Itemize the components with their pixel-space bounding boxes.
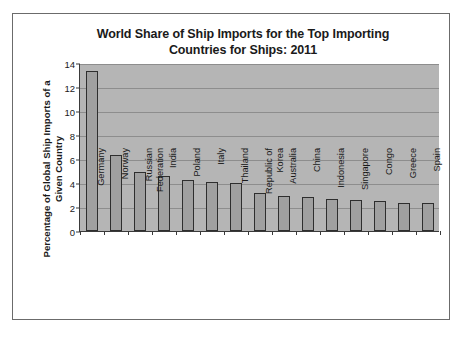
x-category-label-line: China (312, 148, 323, 238)
x-category-label-line: Russian (144, 148, 155, 238)
x-category-label-line: Italy (216, 148, 227, 238)
x-category-label-line: Republic of (264, 148, 275, 238)
x-category-label: Congo (384, 148, 395, 238)
y-axis-title: Percentage of Global Ship Imports of aGi… (36, 63, 70, 275)
chart-title-line-1: World Share of Ship Imports for the Top … (47, 26, 439, 42)
x-category-label: Germany (96, 148, 107, 238)
y-axis-title-line-2: Given Country (53, 81, 65, 258)
chart-figure: World Share of Ship Imports for the Top … (12, 13, 450, 320)
x-category-label: Australia (288, 148, 299, 238)
x-category-label: Greece (408, 148, 419, 238)
x-category-label: Spain (432, 148, 443, 238)
x-category-label-line: Korea (275, 148, 286, 238)
x-category-label-line: Federation (155, 148, 166, 238)
y-tick-label: 12 (64, 83, 75, 94)
y-tick-label: 2 (70, 203, 75, 214)
x-tick-mark (80, 231, 81, 235)
x-category-label-line: Australia (288, 148, 299, 238)
chart-title-line-2: Countries for Ships: 2011 (47, 42, 439, 58)
x-category-label-line: Congo (384, 148, 395, 238)
x-category-label-line: Norway (120, 148, 131, 238)
x-category-label-line: Germany (96, 148, 107, 238)
x-category-label: Singapore (360, 148, 371, 238)
x-category-label: Poland (192, 148, 203, 238)
x-category-label: Thailand (240, 148, 251, 238)
x-category-label-line: Singapore (360, 148, 371, 238)
x-category-label: RussianFederation (144, 148, 165, 238)
y-axis-title-line-1: Percentage of Global Ship Imports of a (41, 81, 53, 258)
x-category-label: India (168, 148, 179, 238)
y-tick-label: 14 (64, 59, 75, 70)
y-tick-label: 4 (70, 179, 75, 190)
x-category-label: Norway (120, 148, 131, 238)
y-tick-label: 8 (70, 131, 75, 142)
x-category-label-line: Thailand (240, 148, 251, 238)
x-category-label-line: Greece (408, 148, 419, 238)
plot-area: 02468101214 GermanyNorwayRussianFederati… (79, 64, 439, 232)
x-category-label-line: India (168, 148, 179, 238)
y-tick-label: 6 (70, 155, 75, 166)
x-category-label: Italy (216, 148, 227, 238)
x-category-label: China (312, 148, 323, 238)
y-tick-label: 10 (64, 107, 75, 118)
x-category-label: Indonesia (336, 148, 347, 238)
y-tick-label: 0 (70, 227, 75, 238)
x-category-label-line: Poland (192, 148, 203, 238)
x-category-label-line: Spain (432, 148, 443, 238)
chart-title: World Share of Ship Imports for the Top … (47, 26, 439, 58)
x-category-label-line: Indonesia (336, 148, 347, 238)
x-category-label: Republic ofKorea (264, 148, 285, 238)
